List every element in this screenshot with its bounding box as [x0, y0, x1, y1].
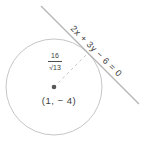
center-dot — [52, 85, 57, 90]
figure-canvas: 2x + 3y − 6 = 0 16 √13 (1, − 4) — [0, 0, 145, 151]
radius-length-label: 16 √13 — [45, 51, 65, 72]
radius-numerator: 16 — [48, 51, 62, 62]
center-point-label: (1, − 4) — [38, 95, 80, 106]
radius-denominator: √13 — [45, 62, 65, 72]
